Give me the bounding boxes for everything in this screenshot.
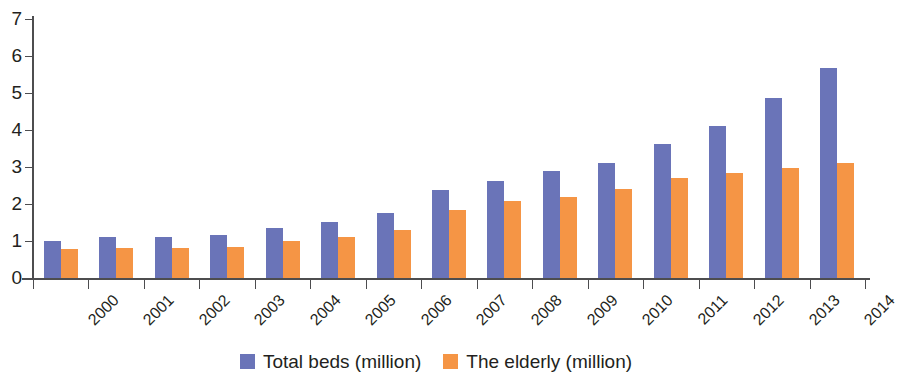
y-axis-tick-label: 5 <box>0 83 22 102</box>
bar <box>560 197 577 278</box>
x-axis-tick <box>699 280 700 289</box>
bar-group <box>810 68 865 278</box>
bar-group <box>532 171 587 278</box>
bar-group <box>754 98 809 278</box>
bar <box>61 249 78 278</box>
x-axis-tick <box>88 280 89 289</box>
bar <box>543 171 560 278</box>
bar <box>394 230 411 278</box>
bar <box>172 248 189 278</box>
bar <box>837 163 854 278</box>
bar-group <box>699 126 754 278</box>
x-axis-tick <box>255 280 256 289</box>
bar <box>44 241 61 278</box>
bar-group <box>477 181 532 278</box>
x-axis-tick <box>532 280 533 289</box>
x-axis-tick-label: 2004 <box>307 292 343 328</box>
x-axis-tick <box>199 280 200 289</box>
bar <box>432 190 449 278</box>
x-axis-tick <box>33 280 34 289</box>
x-axis-tick-label: 2003 <box>252 292 288 328</box>
x-axis-tick <box>588 280 589 289</box>
bar-group <box>33 241 88 278</box>
x-axis-tick <box>643 280 644 289</box>
x-axis-tick-label: 2009 <box>584 292 620 328</box>
x-axis-tick <box>754 280 755 289</box>
bar <box>266 228 283 278</box>
bar <box>820 68 837 278</box>
chart-legend: Total beds (million) The elderly (millio… <box>0 352 872 371</box>
y-axis-tick-label: 0 <box>0 268 22 287</box>
y-axis-tick-label: 6 <box>0 46 22 65</box>
x-axis-tick <box>477 280 478 289</box>
bar-group <box>366 213 421 278</box>
y-axis-tick-label: 1 <box>0 231 22 250</box>
bar-group <box>643 144 698 278</box>
bar <box>99 237 116 278</box>
bar-group <box>255 228 310 278</box>
x-axis-tick <box>144 280 145 289</box>
bar <box>782 168 799 278</box>
x-axis-tick-label: 2005 <box>362 292 398 328</box>
legend-label: Total beds (million) <box>263 352 421 371</box>
bar <box>726 173 743 278</box>
bar <box>377 213 394 278</box>
x-axis-tick <box>366 280 367 289</box>
bar <box>654 144 671 278</box>
bar <box>338 237 355 278</box>
bar <box>321 222 338 278</box>
x-axis-tick-label: 2012 <box>751 292 787 328</box>
bar <box>765 98 782 278</box>
bar-group <box>199 235 254 278</box>
legend-swatch-icon <box>443 354 458 369</box>
x-axis-tick-label: 2002 <box>196 292 232 328</box>
bar-group <box>421 190 476 278</box>
x-axis-tick-label: 2013 <box>806 292 842 328</box>
x-axis-tick-label: 2000 <box>85 292 121 328</box>
bar <box>709 126 726 278</box>
x-axis-tick-label: 2006 <box>418 292 454 328</box>
bar <box>487 181 504 278</box>
bar <box>615 189 632 278</box>
bar-group <box>88 237 143 278</box>
bar <box>283 241 300 278</box>
legend-swatch-icon <box>240 354 255 369</box>
bar <box>671 178 688 278</box>
x-axis-tick <box>810 280 811 289</box>
x-axis-tick <box>310 280 311 289</box>
legend-item: The elderly (million) <box>443 352 632 371</box>
bar <box>504 201 521 278</box>
bar <box>227 247 244 278</box>
legend-label: The elderly (million) <box>466 352 632 371</box>
y-axis-tick-label: 3 <box>0 157 22 176</box>
y-axis-tick-label: 7 <box>0 9 22 28</box>
bar <box>116 248 133 278</box>
x-axis-tick-label: 2001 <box>141 292 177 328</box>
bar <box>155 237 172 278</box>
y-axis-tick-label: 2 <box>0 194 22 213</box>
x-axis-tick <box>865 280 866 289</box>
x-axis-tick-label: 2007 <box>473 292 509 328</box>
legend-item: Total beds (million) <box>240 352 421 371</box>
bar <box>598 163 615 278</box>
x-axis-line <box>22 278 870 280</box>
bar-group <box>144 237 199 278</box>
y-axis-tick-label: 4 <box>0 120 22 139</box>
x-axis-tick-label: 2010 <box>640 292 676 328</box>
x-axis-tick-label: 2011 <box>695 292 731 328</box>
bar-group <box>588 163 643 278</box>
plot-area <box>33 19 865 278</box>
x-axis-tick-label: 2014 <box>862 292 898 328</box>
bar-group <box>310 222 365 278</box>
bar <box>210 235 227 278</box>
y-axis-tick <box>25 278 34 279</box>
bar <box>449 210 466 278</box>
x-axis-tick-label: 2008 <box>529 292 565 328</box>
x-axis-tick <box>421 280 422 289</box>
